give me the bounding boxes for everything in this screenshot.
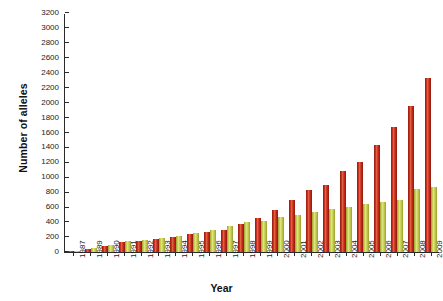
bar-group bbox=[389, 127, 406, 252]
plot-area: 3200300028002600240022002000180016001400… bbox=[64, 14, 439, 253]
y-tick-label: 3000 bbox=[41, 22, 59, 33]
bar-group bbox=[321, 185, 338, 252]
bar-yellow-series bbox=[312, 212, 318, 252]
bar-yellow-series bbox=[193, 233, 199, 252]
x-tick-mark bbox=[397, 252, 398, 256]
bar-group bbox=[338, 171, 355, 252]
bar-yellow-series bbox=[346, 207, 352, 252]
bar-yellow-series bbox=[414, 189, 420, 252]
bar-yellow-series bbox=[142, 240, 148, 252]
bar-group bbox=[82, 248, 99, 252]
y-tick-label: 1200 bbox=[41, 156, 59, 167]
bar-group bbox=[167, 236, 184, 252]
y-tick-label: 2000 bbox=[41, 97, 59, 108]
bar-yellow-series bbox=[210, 230, 216, 252]
y-tick-mark bbox=[65, 221, 69, 222]
bar-yellow-series bbox=[278, 217, 284, 252]
y-tick-mark bbox=[65, 177, 69, 178]
bar-group bbox=[406, 106, 423, 252]
y-tick-label: 1000 bbox=[41, 171, 59, 182]
bar-group bbox=[184, 233, 201, 252]
y-tick-mark bbox=[65, 117, 69, 118]
y-tick-label: 1400 bbox=[41, 141, 59, 152]
bar-group bbox=[201, 230, 218, 252]
bar-group bbox=[65, 251, 82, 252]
y-tick-mark bbox=[65, 132, 69, 133]
bar-group bbox=[253, 218, 270, 252]
bar-yellow-series bbox=[176, 236, 182, 252]
bar-yellow-series bbox=[125, 241, 131, 252]
y-tick-label: 200 bbox=[46, 231, 59, 242]
bar-yellow-series bbox=[295, 215, 301, 252]
bar-group bbox=[218, 226, 235, 252]
x-tick-mark bbox=[158, 252, 159, 256]
y-tick-mark bbox=[65, 162, 69, 163]
bar-group bbox=[372, 145, 389, 252]
x-tick-mark bbox=[380, 252, 381, 256]
x-tick-mark bbox=[414, 252, 415, 256]
y-tick-mark bbox=[65, 87, 69, 88]
bar-yellow-series bbox=[244, 222, 250, 252]
x-tick-mark bbox=[277, 252, 278, 256]
bar-yellow-series bbox=[329, 209, 335, 252]
bar-group bbox=[355, 162, 372, 252]
bar-group bbox=[235, 222, 252, 252]
y-tick-mark bbox=[65, 57, 69, 58]
bar-group bbox=[423, 78, 440, 252]
x-tick-mark bbox=[226, 252, 227, 256]
y-axis-title: Number of alleles bbox=[17, 58, 29, 198]
x-tick-mark bbox=[175, 252, 176, 256]
bar-yellow-series bbox=[397, 200, 403, 252]
y-tick-mark bbox=[65, 102, 69, 103]
bar-yellow-series bbox=[363, 204, 369, 252]
y-tick-mark bbox=[65, 27, 69, 28]
x-tick-mark bbox=[294, 252, 295, 256]
x-tick-mark bbox=[260, 252, 261, 256]
y-tick-mark bbox=[65, 236, 69, 237]
y-tick-label: 1600 bbox=[41, 127, 59, 138]
y-tick-mark bbox=[65, 192, 69, 193]
x-tick-mark bbox=[141, 252, 142, 256]
y-tick-mark bbox=[65, 42, 69, 43]
y-tick-mark bbox=[65, 12, 69, 13]
x-tick-mark bbox=[346, 252, 347, 256]
bar-group bbox=[99, 245, 116, 252]
x-tick-mark bbox=[124, 252, 125, 256]
y-tick-mark bbox=[65, 72, 69, 73]
x-tick-mark bbox=[107, 252, 108, 256]
x-tick-mark bbox=[73, 252, 74, 256]
bar-yellow-series bbox=[227, 226, 233, 252]
bar-group bbox=[270, 210, 287, 252]
y-tick-label: 600 bbox=[46, 201, 59, 212]
bar-group bbox=[133, 240, 150, 252]
x-axis-title: Year bbox=[0, 282, 443, 294]
x-tick-mark bbox=[431, 252, 432, 256]
bar-group bbox=[150, 238, 167, 252]
bar-yellow-series bbox=[261, 221, 267, 252]
y-tick-label: 400 bbox=[46, 216, 59, 227]
bar-group bbox=[287, 200, 304, 252]
x-tick-mark bbox=[363, 252, 364, 256]
y-tick-label: 2800 bbox=[41, 37, 59, 48]
y-tick-label: 2600 bbox=[41, 52, 59, 63]
x-tick-mark bbox=[192, 252, 193, 256]
x-tick-mark bbox=[329, 252, 330, 256]
bar-yellow-series bbox=[431, 187, 437, 252]
y-tick-mark bbox=[65, 207, 69, 208]
bar-yellow-series bbox=[108, 245, 114, 252]
y-tick-label: 2200 bbox=[41, 82, 59, 93]
x-tick-mark bbox=[90, 252, 91, 256]
x-tick-mark bbox=[243, 252, 244, 256]
y-tick-label: 0 bbox=[55, 246, 59, 257]
x-tick-mark bbox=[209, 252, 210, 256]
bar-yellow-series bbox=[380, 202, 386, 252]
y-tick-label: 2400 bbox=[41, 67, 59, 78]
x-tick-mark bbox=[311, 252, 312, 256]
bar-yellow-series bbox=[74, 251, 80, 252]
bar-yellow-series bbox=[159, 238, 165, 252]
y-tick-label: 800 bbox=[46, 186, 59, 197]
bar-yellow-series bbox=[91, 248, 97, 252]
bar-group bbox=[116, 241, 133, 252]
bar-group bbox=[304, 190, 321, 252]
y-tick-label: 3200 bbox=[41, 7, 59, 18]
